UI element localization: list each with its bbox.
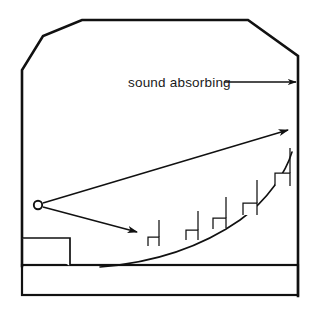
- seat-row-3: [213, 197, 226, 229]
- direct-ray-lower: [43, 207, 137, 232]
- seat-row-2: [186, 211, 198, 240]
- figure-root: sound absorbing: [0, 0, 319, 314]
- seating-rake-curve: [100, 152, 292, 267]
- sound-absorbing-label: sound absorbing: [128, 75, 231, 90]
- direct-ray-upper: [43, 130, 288, 203]
- earth-fill-outline: [22, 265, 298, 295]
- seat-row-5: [275, 148, 290, 186]
- sound-source-symbol: [34, 201, 42, 209]
- seat-row-4: [243, 180, 257, 215]
- auditorium-section-diagram: sound absorbing: [0, 0, 319, 314]
- stage-platform: [22, 238, 70, 266]
- ground-group: [22, 265, 298, 295]
- seat-row-1: [148, 220, 159, 246]
